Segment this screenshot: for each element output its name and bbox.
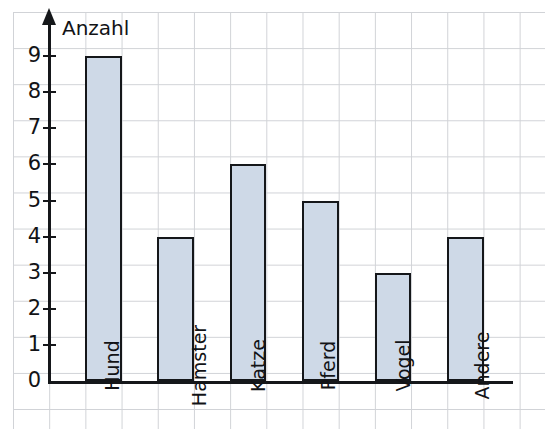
bar-pferd: Pferd	[302, 201, 339, 382]
y-axis-tick	[43, 127, 56, 129]
bar-label: Andere	[449, 356, 482, 375]
y-axis-tick	[43, 272, 56, 274]
y-axis-tick	[43, 236, 56, 238]
bar-hund: Hund	[85, 56, 122, 381]
axis-arrow-up-icon	[42, 8, 56, 25]
y-axis-tick	[43, 308, 56, 310]
y-axis-tick-label: 0	[0, 370, 41, 391]
y-axis-tick	[43, 55, 56, 57]
y-axis-tick-label: 5	[0, 190, 41, 211]
y-axis-tick	[43, 344, 56, 346]
bar-label: Katze	[232, 356, 265, 375]
bar-andere: Andere	[447, 237, 484, 381]
y-axis-tick-label: 6	[0, 153, 41, 174]
bar-label: Vogel	[377, 356, 410, 375]
bar-label: Hund	[87, 356, 120, 375]
bar-vogel: Vogel	[375, 273, 412, 381]
bar-katze: Katze	[230, 164, 267, 381]
chart-page: Anzahl 9876543210 HundHamsterKatzePferdV…	[0, 0, 545, 429]
y-axis-title: Anzahl	[62, 18, 129, 38]
y-axis-tick	[43, 91, 56, 93]
y-axis-tick-label: 2	[0, 298, 41, 319]
y-axis-tick-label: 9	[0, 45, 41, 66]
y-axis-tick-label: 1	[0, 334, 41, 355]
plot-area: Anzahl 9876543210 HundHamsterKatzePferdV…	[0, 0, 545, 429]
y-axis-tick-label: 4	[0, 226, 41, 247]
y-axis-tick	[43, 200, 56, 202]
y-axis-tick-label: 7	[0, 117, 41, 138]
bar-hamster: Hamster	[157, 237, 194, 381]
bar-label: Pferd	[304, 356, 337, 375]
bar-label: Hamster	[159, 356, 192, 375]
y-axis-tick-label: 8	[0, 81, 41, 102]
y-axis-tick	[43, 163, 56, 165]
y-axis-tick-label: 3	[0, 262, 41, 283]
